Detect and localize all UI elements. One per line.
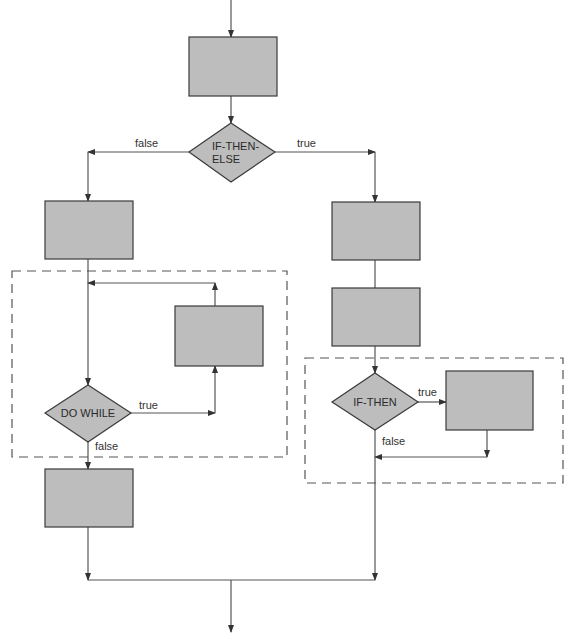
if-then-else-label-line2: ELSE <box>212 153 240 165</box>
ite-true-label: true <box>297 137 316 149</box>
do-while-label: DO WHILE <box>61 407 115 419</box>
ifthen-true-label: true <box>418 386 437 398</box>
ifthen-false-label: false <box>382 435 405 447</box>
process-box-loop-body <box>175 306 263 366</box>
ite-false-label: false <box>135 137 158 149</box>
if-then-label: IF-THEN <box>353 396 396 408</box>
dowhile-false-label: false <box>95 440 118 452</box>
process-box-else <box>45 201 133 259</box>
if-then-else-label-line1: IF-THEN- <box>212 140 259 152</box>
process-box-ifthen-body <box>446 371 533 430</box>
dowhile-true-label: true <box>139 399 158 411</box>
process-box-then-2 <box>332 288 420 346</box>
process-box-then-1 <box>332 202 420 260</box>
process-box-top <box>189 37 277 96</box>
flowchart-canvas: IF-THEN- ELSE DO WHILE IF-THEN false tru… <box>0 0 573 640</box>
process-box-after-loop <box>45 469 133 527</box>
